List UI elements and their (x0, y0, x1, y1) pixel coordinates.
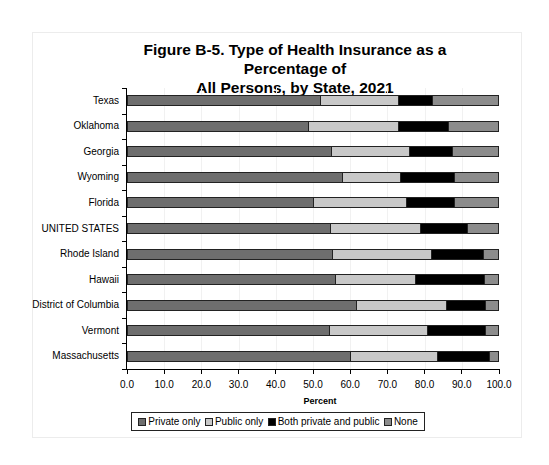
x-tick-label: 70.0 (367, 379, 407, 390)
bar-segment-private-only (127, 249, 333, 260)
bar-row (127, 95, 499, 106)
plot-area: 0.010.020.030.040.050.060.070.080.090.01… (127, 88, 499, 369)
y-tick (122, 114, 127, 115)
bar-segment-none (455, 197, 499, 208)
x-tick-label: 60.0 (330, 379, 370, 390)
category-label: Hawaii (0, 274, 119, 286)
bar-segment-private-only (127, 197, 314, 208)
x-tick-label: 20.0 (181, 379, 221, 390)
y-tick (122, 190, 127, 191)
bar-segment-none (468, 223, 499, 234)
bar-segment-public-only (330, 325, 428, 336)
bar-segment-public-only (343, 172, 401, 183)
category-label: Massachusetts (0, 350, 119, 362)
bar-segment-public-only (333, 249, 432, 260)
x-tick (387, 369, 388, 374)
legend-label: Public only (215, 416, 263, 427)
bar-segment-public-only (357, 300, 447, 311)
y-tick (122, 318, 127, 319)
y-tick (122, 292, 127, 293)
bar-segment-both-private-and-public (399, 95, 433, 106)
bar-segment-none (449, 121, 499, 132)
bar-segment-public-only (336, 274, 416, 285)
legend-swatch-icon (384, 418, 392, 426)
x-tick (238, 369, 239, 374)
category-label: Rhode Island (0, 248, 119, 260)
legend-item: None (384, 416, 418, 427)
bar-segment-none (485, 274, 499, 285)
bar-segment-both-private-and-public (410, 146, 453, 157)
x-tick (350, 369, 351, 374)
x-tick-label: 30.0 (219, 379, 259, 390)
x-tick-label: 40.0 (256, 379, 296, 390)
y-tick (122, 267, 127, 268)
bar-row (127, 249, 499, 260)
y-tick (122, 165, 127, 166)
legend-swatch-icon (138, 418, 146, 426)
category-label: Texas (0, 95, 119, 107)
legend-label: Both private and public (278, 416, 380, 427)
bar-segment-public-only (314, 197, 407, 208)
y-tick (122, 343, 127, 344)
bar-segment-both-private-and-public (401, 172, 455, 183)
bar-segment-none (453, 146, 499, 157)
bar-segment-public-only (331, 223, 421, 234)
x-tick (164, 369, 165, 374)
x-tick (201, 369, 202, 374)
bar-segment-private-only (127, 172, 343, 183)
legend-label: Private only (148, 416, 200, 427)
bar-segment-both-private-and-public (447, 300, 486, 311)
category-label: Florida (0, 197, 119, 209)
bar-segment-both-private-and-public (421, 223, 468, 234)
bar-segment-both-private-and-public (407, 197, 455, 208)
y-tick (122, 241, 127, 242)
bar-segment-none (433, 95, 499, 106)
category-label: Oklahoma (0, 120, 119, 132)
bar-segment-public-only (309, 121, 399, 132)
bar-segment-none (490, 351, 499, 362)
bar-segment-private-only (127, 223, 331, 234)
x-tick-label: 0.0 (107, 379, 147, 390)
legend-item: Both private and public (268, 416, 380, 427)
x-tick (499, 369, 500, 374)
category-label: Wyoming (0, 171, 119, 183)
bar-row (127, 351, 499, 362)
bar-row (127, 146, 499, 157)
bar-row (127, 197, 499, 208)
legend-item: Private only (138, 416, 200, 427)
x-tick-label: 90.0 (442, 379, 482, 390)
y-tick (122, 139, 127, 140)
bar-segment-both-private-and-public (432, 249, 484, 260)
bar-segment-private-only (127, 300, 357, 311)
x-tick-label: 100.0 (479, 379, 519, 390)
bar-segment-private-only (127, 325, 330, 336)
legend-swatch-icon (205, 418, 213, 426)
bar-segment-none (484, 249, 499, 260)
y-tick (122, 88, 127, 89)
bar-row (127, 300, 499, 311)
x-tick (275, 369, 276, 374)
bar-segment-private-only (127, 274, 336, 285)
bar-row (127, 172, 499, 183)
bar-segment-none (486, 325, 499, 336)
y-tick (122, 216, 127, 217)
bar-segment-public-only (321, 95, 399, 106)
x-tick-label: 80.0 (405, 379, 445, 390)
bar-row (127, 223, 499, 234)
bar-segment-both-private-and-public (428, 325, 486, 336)
category-label: District of Columbia (0, 299, 119, 311)
bar-segment-none (486, 300, 499, 311)
bar-segment-both-private-and-public (416, 274, 485, 285)
legend-item: Public only (205, 416, 263, 427)
x-tick-label: 50.0 (293, 379, 333, 390)
category-label: Vermont (0, 325, 119, 337)
x-tick (313, 369, 314, 374)
category-label: Georgia (0, 146, 119, 158)
bar-segment-public-only (332, 146, 410, 157)
bar-row (127, 121, 499, 132)
x-axis-title: Percent (280, 396, 360, 406)
bar-segment-both-private-and-public (438, 351, 490, 362)
x-tick (461, 369, 462, 374)
x-tick (424, 369, 425, 374)
bar-segment-none (455, 172, 499, 183)
